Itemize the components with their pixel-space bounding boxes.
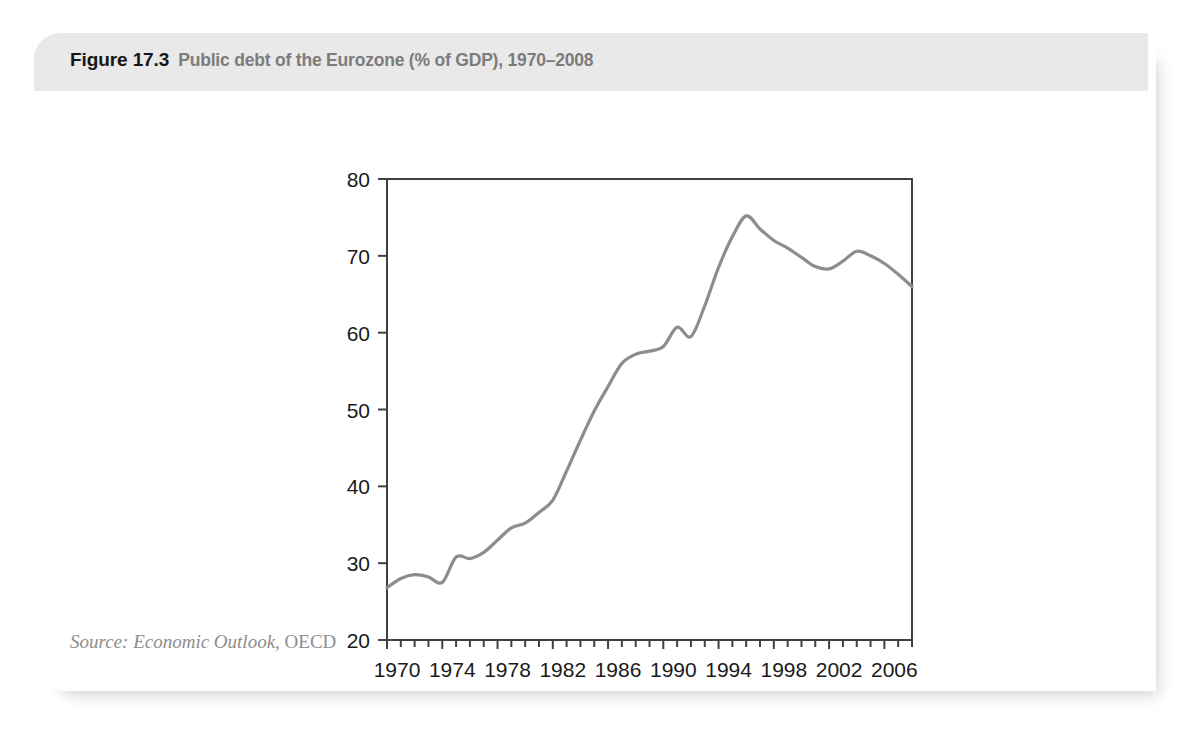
x-tick-label: 2002 [816,658,863,681]
source-publication: Economic Outlook [128,631,275,652]
source-caption: Source: Economic Outlook, OECD [70,631,336,653]
x-tick-label: 2006 [871,658,918,681]
chart-series [387,216,912,588]
line-chart: 20304050607080 1970197419781982198619901… [34,91,1148,681]
series-line [387,216,912,588]
figure-card: Figure 17.3Public debt of the Eurozone (… [34,33,1148,681]
figure-title: Public debt of the Eurozone (% of GDP), … [178,50,593,70]
x-axis-tick-labels: 1970197419781982198619901994199820022006 [374,658,918,681]
y-tick-label: 20 [347,629,370,652]
chart-axes [387,179,912,640]
y-tick-label: 80 [347,168,370,191]
x-tick-label: 1978 [484,658,531,681]
figure-header-text: Figure 17.3Public debt of the Eurozone (… [70,49,593,71]
x-tick-label: 1994 [705,658,752,681]
chart-ticks [378,179,912,649]
source-prefix: Source: [70,631,128,652]
x-tick-label: 1986 [595,658,642,681]
y-tick-label: 30 [347,552,370,575]
x-tick-label: 1982 [539,658,586,681]
x-tick-label: 1998 [760,658,807,681]
y-tick-label: 70 [347,245,370,268]
x-tick-label: 1990 [650,658,697,681]
y-tick-label: 50 [347,399,370,422]
chart-plot-area: 20304050607080 1970197419781982198619901… [34,91,1148,681]
y-tick-label: 60 [347,322,370,345]
figure-number: Figure 17.3 [70,49,169,70]
y-axis-tick-labels: 20304050607080 [347,168,370,652]
x-tick-label: 1974 [429,658,476,681]
figure-header-bar: Figure 17.3Public debt of the Eurozone (… [34,33,1148,91]
y-tick-label: 40 [347,475,370,498]
source-organization: , OECD [275,631,336,652]
x-tick-label: 1970 [374,658,421,681]
